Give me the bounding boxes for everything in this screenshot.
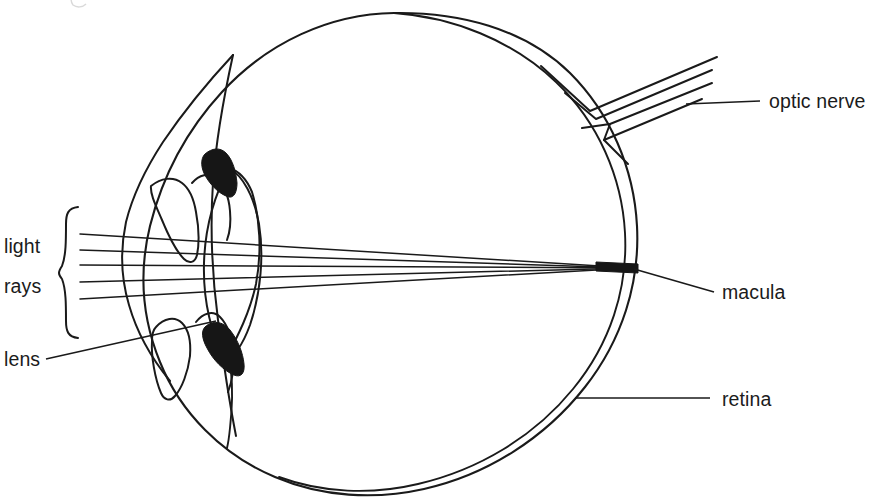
label-macula: macula <box>722 281 786 303</box>
label-retina: retina <box>722 388 771 410</box>
scan-edge-mark <box>71 0 86 7</box>
label-light-rays-line2: rays <box>4 275 41 297</box>
light-rays <box>80 234 632 299</box>
ciliary-body-lower <box>203 322 245 448</box>
macula <box>596 262 638 273</box>
eye-anatomy-diagram: light rays lens optic nerve macula retin… <box>0 0 876 504</box>
macula-leader <box>634 269 714 292</box>
optic-nerve <box>541 57 717 164</box>
retina-inner-wall <box>279 13 625 491</box>
ciliary-body-upper <box>202 149 237 197</box>
light-rays-brace <box>59 207 78 338</box>
label-optic-nerve: optic nerve <box>769 90 866 112</box>
diagram-canvas: light rays lens optic nerve macula retin… <box>0 0 876 504</box>
label-lens: lens <box>4 348 40 370</box>
cornea <box>122 55 236 436</box>
label-light-rays-line1: light <box>4 235 41 257</box>
iris-upper-flap <box>151 179 199 262</box>
